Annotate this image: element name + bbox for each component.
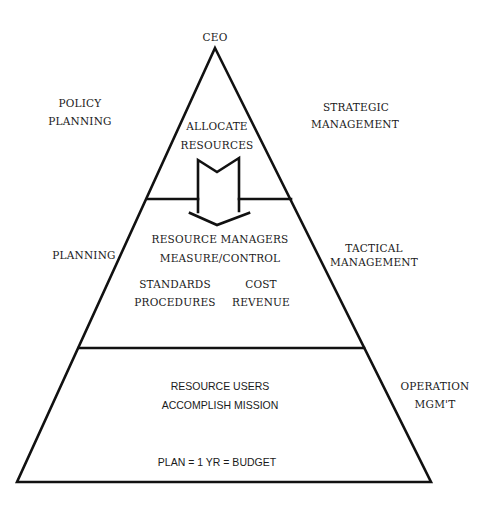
accomplish-mission-label: ACCOMPLISH MISSION <box>162 399 279 411</box>
resource-managers-label: RESOURCE MANAGERS <box>152 233 289 245</box>
resource-users-label: RESOURCE USERS <box>171 380 270 392</box>
tactical-label: TACTICAL <box>345 242 402 254</box>
pyramid-diagram: CEO POLICY PLANNING PLANNING STRATEGIC M… <box>0 0 492 511</box>
cost-label: COST <box>245 278 277 290</box>
operation-mgmt-label: MGM'T <box>415 398 456 410</box>
plan-budget-label: PLAN = 1 YR = BUDGET <box>158 456 277 468</box>
procedures-label: PROCEDURES <box>134 296 215 308</box>
resources-label: RESOURCES <box>181 139 254 151</box>
down-arrow-head <box>190 213 249 225</box>
planning-label: PLANNING <box>52 249 115 261</box>
down-arrow-icon <box>198 158 239 212</box>
standards-label: STANDARDS <box>139 278 211 290</box>
apex-label: CEO <box>203 31 228 43</box>
revenue-label: REVENUE <box>232 296 290 308</box>
allocate-label: ALLOCATE <box>185 120 247 132</box>
strategic-management-label: MANAGEMENT <box>311 118 399 130</box>
policy-planning-label-1: POLICY <box>59 97 103 109</box>
operation-label: OPERATION <box>401 380 470 392</box>
strategic-label: STRATEGIC <box>323 101 389 113</box>
tactical-management-label: MANAGEMENT <box>330 256 418 268</box>
measure-control-label: MEASURE/CONTROL <box>160 252 280 264</box>
policy-planning-label-2: PLANNING <box>48 115 111 127</box>
